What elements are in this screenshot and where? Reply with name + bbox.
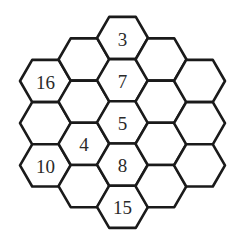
cell-number: 15 — [113, 197, 132, 218]
hex-cell[interactable] — [174, 60, 225, 102]
cell-number: 4 — [79, 134, 89, 155]
cell-number: 3 — [118, 29, 128, 50]
hex-grid-svg: 16104375815 — [0, 0, 239, 242]
hex-grid-puzzle: 16104375815 — [0, 0, 239, 242]
hex-shape — [174, 60, 225, 102]
hex-cell[interactable] — [174, 102, 225, 144]
cell-number: 5 — [118, 113, 128, 134]
hex-cell[interactable] — [174, 144, 225, 186]
cell-number: 10 — [36, 156, 55, 177]
hex-shape — [174, 144, 225, 186]
cell-number: 16 — [36, 72, 55, 93]
hex-shape — [174, 102, 225, 144]
cell-number: 7 — [118, 71, 128, 92]
cell-number: 8 — [118, 155, 128, 176]
